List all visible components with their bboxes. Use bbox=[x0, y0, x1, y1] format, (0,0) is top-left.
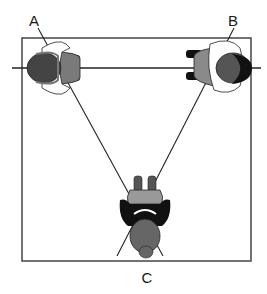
diagram-canvas bbox=[0, 0, 267, 294]
person-b-figure bbox=[186, 41, 252, 92]
label-c: C bbox=[142, 269, 153, 286]
label-b: B bbox=[228, 12, 238, 29]
label-a: A bbox=[29, 12, 39, 29]
person-a-figure bbox=[27, 42, 80, 95]
person-c-figure bbox=[120, 176, 171, 258]
